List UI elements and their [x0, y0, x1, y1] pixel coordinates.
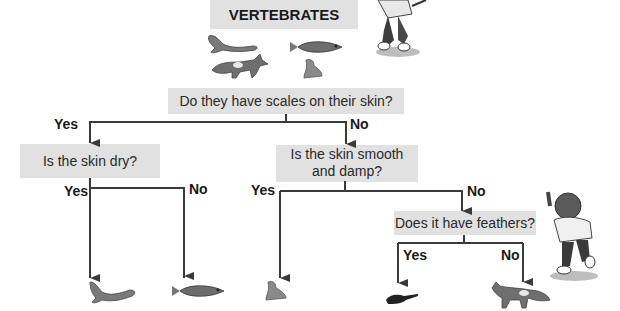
q3-yes-label: Yes [251, 182, 275, 198]
fox-icon [490, 280, 552, 310]
frog-icon [264, 280, 288, 302]
lizard-icon [88, 280, 138, 304]
fish-icon [170, 282, 226, 300]
q1-yes-label: Yes [54, 116, 78, 132]
cartoon-boy-pointing-icon [540, 186, 606, 282]
q3-no-label: No [467, 183, 486, 199]
q4-yes-label: Yes [403, 247, 427, 263]
q2-yes-label: Yes [64, 183, 88, 199]
connector-lines [0, 0, 620, 311]
q2-no-label: No [189, 181, 208, 197]
bird-icon [384, 290, 420, 306]
q1-no-label: No [350, 116, 369, 132]
q4-no-label: No [501, 247, 520, 263]
